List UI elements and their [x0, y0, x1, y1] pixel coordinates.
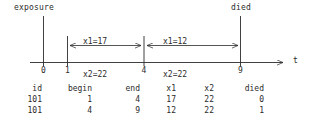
- interval-1-x2-label: x2=22: [83, 69, 107, 80]
- column-header-begin: begin: [42, 83, 92, 94]
- column-header-died: died: [214, 83, 264, 94]
- tick-label-9: 9: [234, 66, 248, 76]
- died-event-label: died: [231, 3, 251, 13]
- table-header-row: id begin end x1 x2 died: [0, 83, 310, 94]
- column-header-end: end: [92, 83, 140, 94]
- time-axis-label: t: [293, 56, 298, 66]
- cell-id: 101: [0, 94, 42, 105]
- cell-pad: [264, 105, 310, 116]
- cell-begin: 4: [42, 105, 92, 116]
- cell-x1: 17: [140, 94, 176, 105]
- column-header-x2: x2: [176, 83, 214, 94]
- interval-2-x1-label: x1=12: [163, 36, 187, 47]
- interval-2-x2-label: x2=22: [163, 69, 187, 80]
- interval-1-x1-label: x1=17: [83, 36, 107, 47]
- cell-id: 101: [0, 105, 42, 116]
- column-header-id: id: [0, 83, 42, 94]
- cell-begin: 1: [42, 94, 92, 105]
- cell-pad: [264, 94, 310, 105]
- tick-label-4: 4: [137, 66, 151, 76]
- cell-died: 0: [214, 94, 264, 105]
- tick-label-0: 0: [37, 66, 51, 76]
- column-header-pad: [264, 83, 310, 94]
- table-row: 101 1 4 17 22 0: [0, 94, 310, 105]
- timeline-figure: exposure died x1=17 x2=22 x1=12 x2=22 t …: [0, 0, 310, 119]
- exposure-event-label: exposure: [14, 3, 54, 13]
- table-row: 101 4 9 12 22 1: [0, 105, 310, 116]
- cell-x1: 12: [140, 105, 176, 116]
- cell-end: 4: [92, 94, 140, 105]
- cell-end: 9: [92, 105, 140, 116]
- cell-died: 1: [214, 105, 264, 116]
- episode-data-table: id begin end x1 x2 died 101 1 4 17 22 0 …: [0, 83, 310, 116]
- cell-x2: 22: [176, 105, 214, 116]
- column-header-x1: x1: [140, 83, 176, 94]
- tick-label-1: 1: [61, 66, 75, 76]
- cell-x2: 22: [176, 94, 214, 105]
